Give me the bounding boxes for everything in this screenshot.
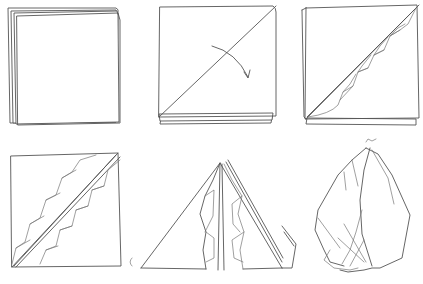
step-1-folded-square bbox=[8, 8, 120, 125]
step-6-finished-napkin bbox=[282, 148, 410, 272]
napkin-fold-diagram bbox=[0, 0, 423, 284]
step-4-double-pleats bbox=[11, 153, 132, 267]
step-5-triangle-with-pleats bbox=[141, 160, 283, 270]
step-3-pleating bbox=[302, 5, 419, 142]
step-2-diagonal-fold bbox=[159, 6, 276, 124]
